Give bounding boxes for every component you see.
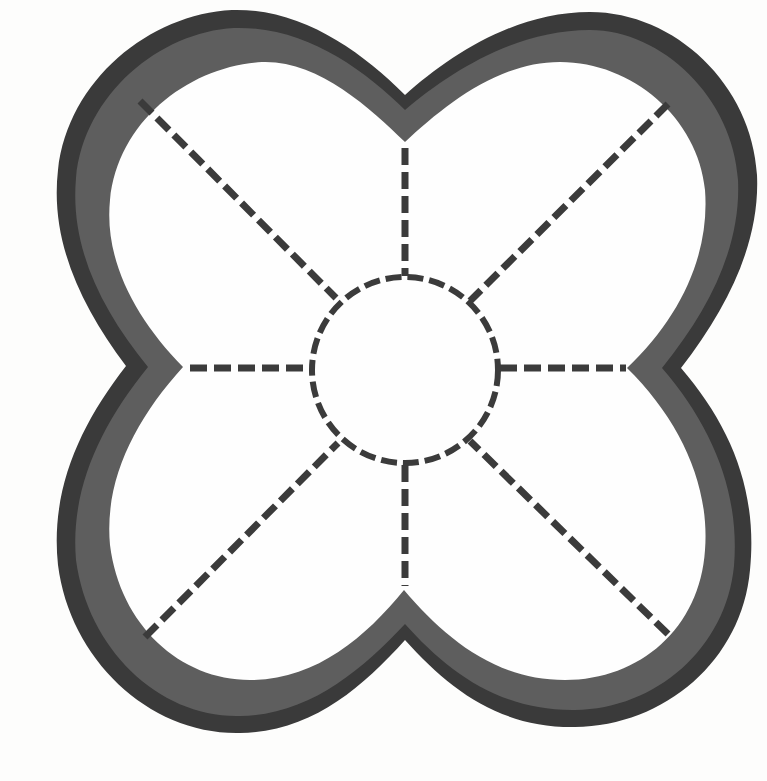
quatrefoil-diagram: [0, 0, 767, 781]
diagram-canvas: [0, 0, 767, 781]
